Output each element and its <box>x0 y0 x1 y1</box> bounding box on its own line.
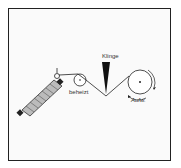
blade-icon <box>102 62 110 94</box>
blade-label: Klinge <box>102 53 119 59</box>
winder-roll-icon <box>128 70 156 100</box>
winder-label: Aufw. <box>131 97 146 103</box>
heated-label: beheizt <box>69 89 88 95</box>
guide-pin-icon <box>55 68 60 79</box>
supply-roll-icon <box>16 78 63 116</box>
process-diagram <box>0 0 181 168</box>
